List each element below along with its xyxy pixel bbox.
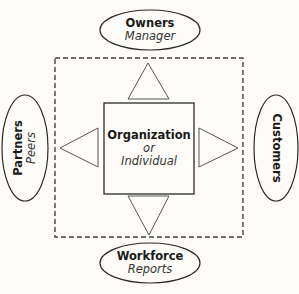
arrow-up-triangle: [128, 63, 169, 99]
partners-subtitle: Peers: [25, 120, 38, 176]
partners-label: Partners Peers: [12, 120, 38, 176]
center-label: Organization or Individual: [107, 129, 191, 169]
customers-label: Customers: [269, 113, 282, 182]
arrow-right-triangle: [199, 128, 238, 167]
arrow-down-triangle: [128, 196, 169, 235]
arrow-left-triangle: [60, 128, 98, 167]
owners-label: Owners Manager: [125, 17, 175, 43]
workforce-label: Workforce Reports: [117, 250, 184, 276]
customers-title: Customers: [269, 113, 282, 182]
owners-subtitle: Manager: [125, 30, 175, 43]
workforce-subtitle: Reports: [117, 263, 184, 276]
center-subtitle: Individual: [107, 156, 191, 169]
